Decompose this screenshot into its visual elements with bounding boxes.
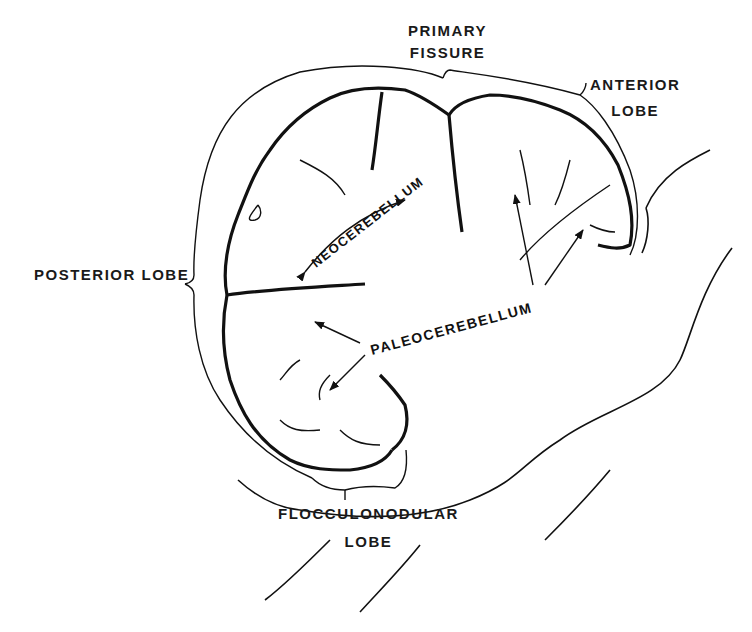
primary-fissure-label: PRIMARY FISSURE	[408, 20, 487, 64]
lobe-brackets	[185, 66, 638, 500]
paleocerebellum-label: PALEOCEREBELLUM	[369, 299, 534, 358]
anterior-lobe-line1: ANTERIOR	[590, 74, 680, 96]
cerebellum-outline	[224, 88, 632, 470]
anterior-lobe-label: ANTERIOR LOBE	[590, 74, 680, 122]
neocerebellum-label: NEOCEREBELLUM	[309, 174, 427, 271]
flocculonodular-line2: LOBE	[278, 531, 459, 553]
posterior-lobe-label: POSTERIOR LOBE	[34, 264, 189, 286]
primary-fissure-line2: FISSURE	[408, 42, 487, 64]
flocculonodular-lobe-label: FLOCCULONODULAR LOBE	[278, 503, 459, 553]
primary-fissure-line1: PRIMARY	[408, 20, 487, 42]
anterior-lobe-line2: LOBE	[590, 100, 680, 122]
folia-branches	[249, 150, 615, 445]
flocculonodular-line1: FLOCCULONODULAR	[278, 503, 459, 525]
